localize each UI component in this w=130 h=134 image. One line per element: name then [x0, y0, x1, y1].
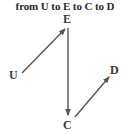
node-label-c: C	[63, 119, 72, 131]
node-label-d: D	[110, 64, 119, 76]
node-label-e: E	[63, 13, 71, 25]
path-diagram-figure: from U to E to C to D E U C D	[0, 0, 130, 134]
edge-c-to-d	[75, 77, 109, 117]
edge-u-to-e	[22, 29, 65, 73]
node-label-u: U	[9, 69, 18, 81]
